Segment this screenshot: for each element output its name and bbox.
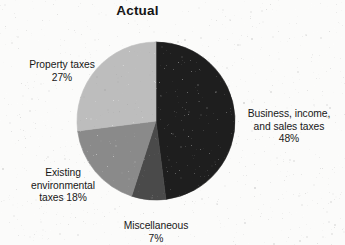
pie-chart-figure: Actual Property taxes 27% Business, inco… [0,0,345,245]
slice-label-miscellaneous-name: Miscellaneous [124,220,189,231]
slice-label-environmental-taxes-name: Existing environmental taxes 18% [31,167,95,203]
slice-label-environmental-taxes: Existing environmental taxes 18% [14,155,112,205]
slice-label-property-taxes: Property taxes 27% [8,47,116,97]
slice-label-miscellaneous: Miscellaneous 7% [104,208,208,245]
slice-label-property-taxes-percent: 27% [8,72,116,84]
slice-label-business-taxes: Business, income, and sales taxes 48% [236,96,342,158]
slice-label-business-taxes-percent: 48% [236,133,342,145]
slice-label-property-taxes-name: Property taxes [29,59,95,70]
pie-slice [156,42,235,199]
slice-label-miscellaneous-percent: 7% [104,233,208,245]
slice-label-business-taxes-name: Business, income, and sales taxes [248,108,331,131]
